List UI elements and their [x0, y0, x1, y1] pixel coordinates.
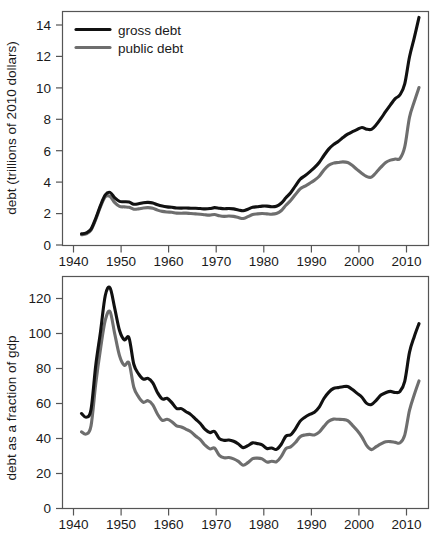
bottom-y-ticklabels: 0 20 40 60 80 100 120	[28, 291, 51, 516]
top-ytick-10: 10	[36, 81, 51, 96]
legend-label-gross-debt: gross debt	[118, 23, 181, 38]
top-ytick-12: 12	[36, 49, 51, 64]
top-chart-svg: debt (trillions of 2010 dollars) 0 2 4 6…	[0, 0, 439, 268]
series-line-public-debt-top	[82, 87, 419, 234]
chart-panel-debt-fraction-gdp: debt as a fraction of gdp 0 20 40 60 80 …	[0, 268, 439, 547]
top-xtick-1980: 1980	[249, 254, 279, 268]
top-x-ticklabels: 1940 1950 1960 1970 1980 1990 2000 2010	[58, 254, 421, 268]
bottom-y-axis-title: debt as a fraction of gdp	[4, 336, 19, 481]
top-y-ticks	[56, 25, 63, 245]
top-ytick-14: 14	[36, 18, 52, 33]
legend-label-public-debt: public debt	[118, 41, 184, 56]
debt-figure: debt (trillions of 2010 dollars) 0 2 4 6…	[0, 0, 439, 547]
bottom-xtick-2000: 2000	[344, 517, 374, 532]
bottom-xtick-1970: 1970	[201, 517, 231, 532]
bottom-xtick-1940: 1940	[58, 517, 88, 532]
bottom-plot-frame	[63, 277, 429, 509]
bottom-ytick-0: 0	[43, 501, 51, 516]
bottom-xtick-1980: 1980	[249, 517, 279, 532]
bottom-ytick-100: 100	[28, 326, 51, 341]
bottom-ytick-80: 80	[36, 361, 51, 376]
bottom-ytick-20: 20	[36, 466, 51, 481]
top-xtick-1990: 1990	[296, 254, 326, 268]
bottom-x-ticklabels: 1940 1950 1960 1970 1980 1990 2000 2010	[58, 517, 421, 532]
top-xtick-2000: 2000	[344, 254, 374, 268]
series-line-gross-debt-bottom	[82, 287, 419, 449]
top-ytick-0: 0	[43, 238, 51, 253]
top-xtick-1950: 1950	[106, 254, 136, 268]
bottom-xtick-1960: 1960	[154, 517, 184, 532]
bottom-ytick-60: 60	[36, 396, 51, 411]
bottom-ytick-40: 40	[36, 431, 51, 446]
series-line-public-debt-bottom	[82, 311, 419, 465]
top-ytick-8: 8	[43, 112, 51, 127]
bottom-chart-svg: debt as a fraction of gdp 0 20 40 60 80 …	[0, 268, 439, 547]
top-xtick-1970: 1970	[201, 254, 231, 268]
top-xtick-2010: 2010	[391, 254, 421, 268]
top-ytick-4: 4	[43, 175, 51, 190]
top-ytick-2: 2	[43, 206, 51, 221]
top-x-ticks	[74, 246, 407, 253]
bottom-ytick-120: 120	[28, 291, 51, 306]
legend: gross debt public debt	[76, 23, 184, 56]
chart-panel-debt-trillions: debt (trillions of 2010 dollars) 0 2 4 6…	[0, 0, 439, 268]
bottom-x-ticks	[74, 509, 407, 516]
bottom-xtick-1950: 1950	[106, 517, 136, 532]
bottom-xtick-1990: 1990	[296, 517, 326, 532]
top-y-axis-title: debt (trillions of 2010 dollars)	[4, 41, 19, 214]
top-y-ticklabels: 0 2 4 6 8 10 12 14	[36, 18, 52, 253]
bottom-y-ticks	[56, 299, 63, 509]
bottom-xtick-2010: 2010	[391, 517, 421, 532]
top-xtick-1960: 1960	[154, 254, 184, 268]
top-xtick-1940: 1940	[58, 254, 88, 268]
top-ytick-6: 6	[43, 144, 51, 159]
